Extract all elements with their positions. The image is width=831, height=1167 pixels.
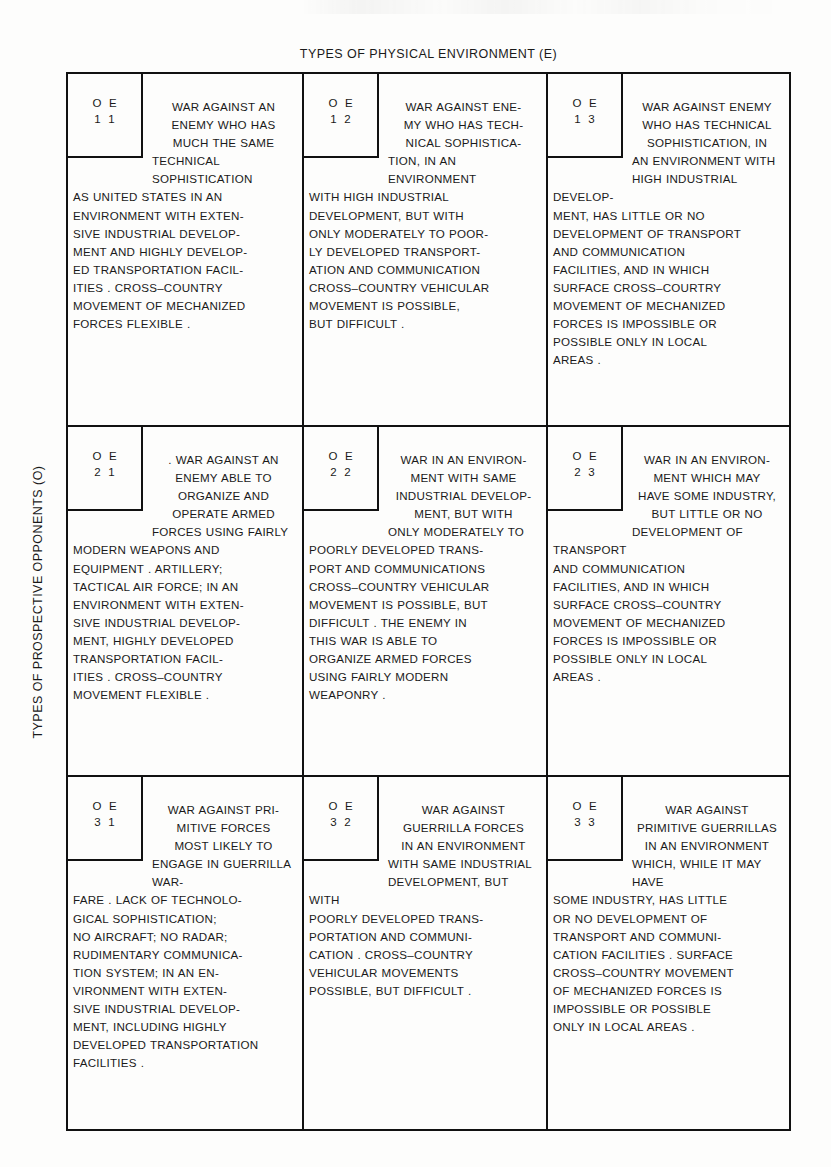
text-line: POSSIBLE ONLY IN LOCAL — [553, 650, 782, 668]
text-line: ED TRANSPORTATION FACIL- — [73, 261, 295, 279]
cell-code-box: O E2 2 — [304, 427, 379, 511]
text-line: SOME INDUSTRY, HAS LITTLE — [553, 891, 782, 909]
text-line: MOVEMENT OF MECHANIZED — [73, 297, 295, 315]
cell-code-label: O E — [68, 800, 141, 812]
cell-code-box: O E1 3 — [548, 74, 623, 158]
text-line: AND COMMUNICATION — [553, 560, 782, 578]
matrix-cell-32: O E3 2WAR AGAINSTGUERRILLA FORCESIN AN E… — [304, 777, 548, 1129]
cell-code-index: 3 2 — [304, 816, 377, 828]
text-line: FORCES IS IMPOSSIBLE OR — [553, 632, 782, 650]
text-line: BUT DIFFICULT . — [309, 315, 539, 333]
cell-code-label: O E — [304, 450, 377, 462]
text-line: THIS WAR IS ABLE TO — [309, 632, 539, 650]
text-line: AS UNITED STATES IN AN — [73, 188, 295, 206]
cell-code-index: 1 1 — [68, 113, 141, 125]
text-line: VIRONMENT WITH EXTEN- — [73, 982, 295, 1000]
column-axis-title: TYPES OF PHYSICAL ENVIRONMENT (E) — [66, 47, 791, 61]
cell-code-label: O E — [68, 97, 141, 109]
matrix-cell-11: O E1 1WAR AGAINST ANENEMY WHO HASMUCH TH… — [68, 74, 304, 427]
text-line: TION SYSTEM; IN AN EN- — [73, 964, 295, 982]
text-line: AND COMMUNICATION — [553, 243, 782, 261]
document-page: TYPES OF PHYSICAL ENVIRONMENT (E) TYPES … — [0, 0, 831, 1167]
cell-code-label: O E — [548, 800, 621, 812]
text-line: FORCES FLEXIBLE . — [73, 315, 295, 333]
row-axis-title: TYPES OF PROSPECTIVE OPPONENTS (O) — [31, 282, 45, 922]
text-line: TACTICAL AIR FORCE; IN AN — [73, 578, 295, 596]
cell-description-body: DEVELOPMENT OF TRANSPORTAND COMMUNICATIO… — [553, 523, 782, 686]
text-line: USING FAIRLY MODERN — [309, 668, 539, 686]
matrix-cell-13: O E1 3WAR AGAINST ENEMYWHO HAS TECHNICAL… — [548, 74, 789, 427]
text-line: POSSIBLE, BUT DIFFICULT . — [309, 982, 539, 1000]
text-line: TRANSPORT AND COMMUNI- — [553, 928, 782, 946]
text-line: CROSS–COUNTRY VEHICULAR — [309, 279, 539, 297]
text-line: ITIES . CROSS–COUNTRY — [73, 668, 295, 686]
cell-code-box: O E3 3 — [548, 777, 623, 861]
text-line: FACILITIES . — [73, 1054, 295, 1072]
text-line: CROSS–COUNTRY VEHICULAR — [309, 578, 539, 596]
cell-description-body: FORCES USING FAIRLYMODERN WEAPONS ANDEQU… — [73, 523, 295, 704]
text-line: MOVEMENT IS POSSIBLE, BUT — [309, 596, 539, 614]
cell-code-box: O E3 2 — [304, 777, 379, 861]
matrix-cell-22: O E2 2WAR IN AN ENVIRON-MENT WITH SAMEIN… — [304, 427, 548, 777]
text-line: CROSS–COUNTRY MOVEMENT — [553, 964, 782, 982]
text-line: DIFFICULT . THE ENEMY IN — [309, 614, 539, 632]
page-bleed-artifact — [300, 0, 800, 14]
cell-code-box: O E2 3 — [548, 427, 623, 511]
text-line: POORLY DEVELOPED TRANS- — [309, 910, 539, 928]
matrix-cell-23: O E2 3WAR IN AN ENVIRON-MENT WHICH MAYHA… — [548, 427, 789, 777]
cell-code-box: O E3 1 — [68, 777, 143, 861]
text-line: GICAL SOPHISTICATION; — [73, 910, 295, 928]
cell-code-label: O E — [548, 97, 621, 109]
text-line: ITIES . CROSS–COUNTRY — [73, 279, 295, 297]
typology-matrix: O E1 1WAR AGAINST ANENEMY WHO HASMUCH TH… — [66, 72, 791, 1131]
text-line: MODERN WEAPONS AND — [73, 541, 295, 559]
text-line: MENT AND HIGHLY DEVELOP- — [73, 243, 295, 261]
text-line: ONLY MODERATELY TO POOR- — [309, 225, 539, 243]
text-line: SIVE INDUSTRIAL DEVELOP- — [73, 225, 295, 243]
text-line: CATION . CROSS–COUNTRY — [309, 946, 539, 964]
text-line: SURFACE CROSS–COUNTRY — [553, 596, 782, 614]
text-line: PORT AND COMMUNICATIONS — [309, 560, 539, 578]
matrix-cell-12: O E1 2WAR AGAINST ENE-MY WHO HAS TECH-NI… — [304, 74, 548, 427]
text-line: FORCES IS IMPOSSIBLE OR — [553, 315, 782, 333]
text-line: ATION AND COMMUNICATION — [309, 261, 539, 279]
text-line: MENT, HIGHLY DEVELOPED — [73, 632, 295, 650]
matrix-cell-21: O E2 1. WAR AGAINST ANENEMY ABLE TOORGAN… — [68, 427, 304, 777]
text-line: SURFACE CROSS–COURTRY — [553, 279, 782, 297]
text-line: PORTATION AND COMMUNI- — [309, 928, 539, 946]
text-line: MENT, HAS LITTLE OR NO — [553, 207, 782, 225]
text-line: MOVEMENT IS POSSIBLE, — [309, 297, 539, 315]
text-line: OR NO DEVELOPMENT OF — [553, 910, 782, 928]
cell-code-index: 3 3 — [548, 816, 621, 828]
text-line: TRANSPORTATION FACIL- — [73, 650, 295, 668]
cell-code-index: 1 3 — [548, 113, 621, 125]
text-line: MOVEMENT FLEXIBLE . — [73, 686, 295, 704]
text-line: VEHICULAR MOVEMENTS — [309, 964, 539, 982]
cell-code-label: O E — [68, 450, 141, 462]
text-line: ORGANIZE ARMED FORCES — [309, 650, 539, 668]
text-line: SIVE INDUSTRIAL DEVELOP- — [73, 614, 295, 632]
cell-description-body: ONLY MODERATELY TOPOORLY DEVELOPED TRANS… — [309, 523, 539, 704]
text-line: DEVELOPMENT, BUT WITH — [309, 207, 539, 225]
text-line: CATION FACILITIES . SURFACE — [553, 946, 782, 964]
cell-code-index: 2 1 — [68, 466, 141, 478]
text-line: NO AIRCRAFT; NO RADAR; — [73, 928, 295, 946]
text-line: LY DEVELOPED TRANSPORT- — [309, 243, 539, 261]
text-line: POORLY DEVELOPED TRANS- — [309, 541, 539, 559]
text-line: MOVEMENT OF MECHANIZED — [553, 614, 782, 632]
text-line: ENVIRONMENT WITH EXTEN- — [73, 207, 295, 225]
cell-code-index: 2 2 — [304, 466, 377, 478]
text-line: RUDIMENTARY COMMUNICA- — [73, 946, 295, 964]
cell-code-index: 2 3 — [548, 466, 621, 478]
text-line: FARE . LACK OF TECHNOLO- — [73, 891, 295, 909]
text-line: FACILITIES, AND IN WHICH — [553, 261, 782, 279]
cell-code-index: 3 1 — [68, 816, 141, 828]
text-line: AREAS . — [553, 668, 782, 686]
cell-code-label: O E — [548, 450, 621, 462]
text-line: DEVELOPMENT OF TRANSPORT — [553, 225, 782, 243]
text-line: DEVELOPED TRANSPORTATION — [73, 1036, 295, 1054]
text-line: AREAS . — [553, 351, 782, 369]
text-line: WEAPONRY . — [309, 686, 539, 704]
cell-code-box: O E1 1 — [68, 74, 143, 158]
text-line: POSSIBLE ONLY IN LOCAL — [553, 333, 782, 351]
